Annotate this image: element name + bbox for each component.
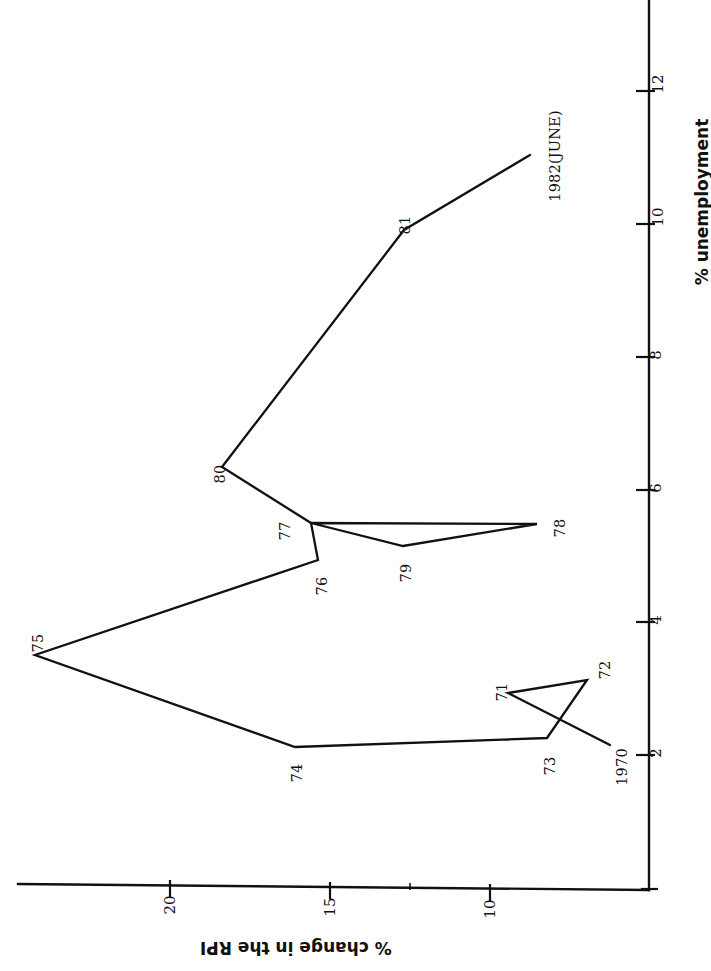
x-tick-label-6: 6 bbox=[647, 483, 665, 493]
point-label-78: 78 bbox=[552, 519, 568, 538]
point-label-81: 81 bbox=[397, 216, 413, 235]
series-path-main bbox=[35, 523, 610, 747]
point-label-75: 75 bbox=[30, 634, 46, 653]
plot-area bbox=[0, 0, 711, 971]
point-label-73: 73 bbox=[542, 757, 558, 776]
chart-figure: 2 4 6 8 10 12 10 15 20 % unemployment % … bbox=[0, 0, 711, 971]
x-axis-title: % unemployment bbox=[692, 119, 711, 286]
x-tick-label-2: 2 bbox=[647, 748, 665, 758]
x-tick-label-12: 12 bbox=[649, 74, 667, 93]
x-tick-label-4: 4 bbox=[647, 615, 665, 625]
series-path-late bbox=[222, 155, 530, 523]
y-axis-title: % change in the RPI bbox=[200, 938, 392, 958]
point-label-76: 76 bbox=[314, 577, 330, 596]
point-label-80: 80 bbox=[212, 465, 228, 484]
rpi-axis-line bbox=[18, 884, 649, 890]
point-label-72: 72 bbox=[597, 661, 613, 680]
y-tick-label-10: 10 bbox=[481, 899, 499, 918]
point-label-1982-june: 1982(JUNE) bbox=[547, 110, 563, 202]
y-tick-label-20: 20 bbox=[161, 895, 179, 914]
point-label-79: 79 bbox=[398, 564, 414, 583]
point-label-77: 77 bbox=[277, 522, 293, 541]
point-label-74: 74 bbox=[289, 764, 305, 783]
y-tick-label-15: 15 bbox=[321, 897, 339, 916]
point-label-1970: 1970 bbox=[614, 748, 630, 786]
x-tick-label-10: 10 bbox=[649, 207, 667, 226]
x-tick-label-8: 8 bbox=[647, 350, 665, 360]
point-label-71: 71 bbox=[494, 683, 510, 702]
